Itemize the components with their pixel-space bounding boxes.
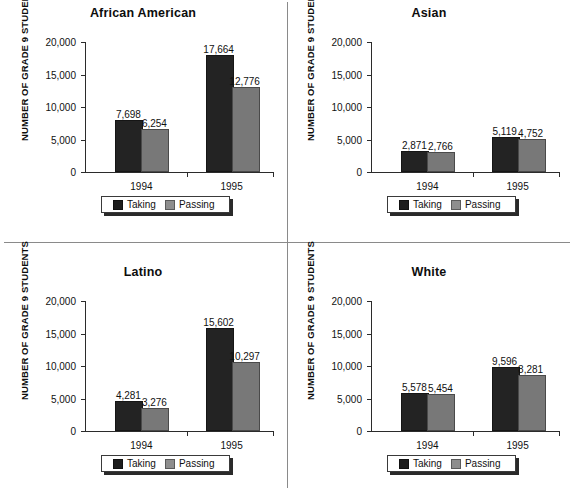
bar-value-label: 3,276	[142, 397, 167, 408]
x-axis-tick-label: 1994	[130, 440, 152, 451]
x-axis-tick	[187, 172, 188, 177]
x-axis-tick	[273, 172, 274, 177]
x-axis-tick-label: 1994	[416, 181, 438, 192]
legend-box: TakingPassing	[387, 455, 516, 472]
y-axis-tick-label: 0	[356, 167, 362, 178]
plot-area: 05,00010,00015,00020,000199419952,8712,7…	[371, 42, 559, 172]
legend-label-taking: Taking	[127, 458, 156, 469]
y-axis-tick	[367, 366, 372, 367]
legend-box: TakingPassing	[101, 196, 230, 213]
y-axis-tick-label: 0	[70, 426, 76, 437]
bar-value-label: 5,454	[428, 383, 453, 394]
y-axis-tick-label: 5,000	[337, 393, 362, 404]
y-axis-tick	[81, 42, 86, 43]
y-axis-tick	[367, 301, 372, 302]
bar-taking-1995	[206, 55, 234, 172]
chart-grid: African AmericanNUMBER OF GRADE 9 STUDEN…	[0, 0, 572, 489]
legend-label-passing: Passing	[179, 458, 215, 469]
chart-panel-latino: LatinoNUMBER OF GRADE 9 STUDENTS05,00010…	[0, 243, 286, 489]
bar-passing-1994	[427, 394, 455, 431]
x-axis-tick	[273, 431, 274, 436]
y-axis-tick-label: 15,000	[45, 69, 76, 80]
y-axis-tick	[367, 140, 372, 141]
bar-value-label: 5,119	[492, 126, 516, 137]
x-axis-tick-label: 1995	[507, 181, 529, 192]
bar-value-label: 12,776	[229, 76, 260, 87]
chart-panel-white: WhiteNUMBER OF GRADE 9 STUDENTS05,00010,…	[286, 243, 572, 489]
y-axis-tick-label: 10,000	[45, 102, 76, 113]
y-axis-tick-label: 15,000	[331, 328, 362, 339]
y-axis-tick	[81, 301, 86, 302]
chart-title: Asian	[286, 6, 572, 20]
chart-title: African American	[0, 6, 286, 20]
bar-passing-1995	[232, 87, 260, 172]
plot-area: 05,00010,00015,00020,000199419954,2813,2…	[85, 301, 273, 431]
chart-title: Latino	[0, 265, 286, 279]
x-axis-tick	[473, 431, 474, 436]
y-axis-tick-label: 15,000	[331, 69, 362, 80]
y-axis-label: NUMBER OF GRADE 9 STUDENTS	[19, 241, 30, 401]
chart-legend: TakingPassing	[101, 455, 230, 472]
bar-value-label: 2,871	[402, 140, 427, 151]
x-axis-line	[371, 431, 559, 432]
bar-taking-1994	[115, 120, 143, 172]
y-axis-tick	[367, 107, 372, 108]
bar-value-label: 7,698	[116, 109, 141, 120]
bar-taking-1994	[401, 393, 429, 431]
y-axis-tick	[367, 431, 372, 432]
bar-taking-1994	[401, 151, 429, 172]
legend-item-passing: Passing	[451, 199, 501, 210]
x-axis-line	[85, 172, 273, 173]
legend-box: TakingPassing	[387, 196, 516, 213]
y-axis-tick-label: 5,000	[337, 134, 362, 145]
x-axis-line	[371, 172, 559, 173]
legend-label-taking: Taking	[127, 199, 156, 210]
y-axis-tick	[81, 140, 86, 141]
y-axis-tick	[367, 172, 372, 173]
legend-box: TakingPassing	[101, 455, 230, 472]
legend-item-taking: Taking	[399, 199, 442, 210]
taking-color-swatch-icon	[113, 200, 123, 210]
y-axis-tick-label: 20,000	[45, 37, 76, 48]
y-axis-tick	[81, 431, 86, 432]
x-axis-tick-label: 1995	[507, 440, 529, 451]
legend-item-taking: Taking	[113, 458, 156, 469]
bar-value-label: 8,281	[518, 364, 543, 375]
legend-item-passing: Passing	[451, 458, 501, 469]
y-axis-label: NUMBER OF GRADE 9 STUDENTS	[305, 241, 316, 401]
y-axis-tick-label: 10,000	[331, 361, 362, 372]
y-axis-tick	[81, 75, 86, 76]
bar-passing-1994	[141, 408, 169, 431]
y-axis-tick-label: 0	[70, 167, 76, 178]
passing-color-swatch-icon	[165, 459, 175, 469]
legend-label-taking: Taking	[413, 458, 442, 469]
y-axis-label: NUMBER OF GRADE 9 STUDENTS	[19, 0, 30, 142]
x-axis-tick	[559, 431, 560, 436]
legend-item-taking: Taking	[399, 458, 442, 469]
bar-value-label: 4,281	[116, 390, 141, 401]
chart-legend: TakingPassing	[387, 455, 516, 472]
y-axis-label: NUMBER OF GRADE 9 STUDENTS	[305, 0, 316, 142]
passing-color-swatch-icon	[165, 200, 175, 210]
y-axis-tick	[367, 399, 372, 400]
chart-panel-african-american: African AmericanNUMBER OF GRADE 9 STUDEN…	[0, 0, 286, 243]
legend-label-passing: Passing	[179, 199, 215, 210]
y-axis-tick-label: 15,000	[45, 328, 76, 339]
taking-color-swatch-icon	[399, 200, 409, 210]
bar-taking-1995	[492, 367, 520, 431]
y-axis-tick-label: 20,000	[331, 296, 362, 307]
legend-label-taking: Taking	[413, 199, 442, 210]
passing-color-swatch-icon	[451, 200, 461, 210]
y-axis-tick	[81, 107, 86, 108]
y-axis-tick-label: 10,000	[45, 361, 76, 372]
bar-value-label: 17,664	[203, 44, 234, 55]
chart-title: White	[286, 265, 572, 279]
y-axis-tick-label: 20,000	[45, 296, 76, 307]
x-axis-tick-label: 1994	[416, 440, 438, 451]
legend-item-taking: Taking	[113, 199, 156, 210]
bar-value-label: 9,596	[492, 356, 517, 367]
legend-item-passing: Passing	[165, 199, 215, 210]
taking-color-swatch-icon	[399, 459, 409, 469]
legend-label-passing: Passing	[465, 199, 501, 210]
y-axis-tick-label: 20,000	[331, 37, 362, 48]
